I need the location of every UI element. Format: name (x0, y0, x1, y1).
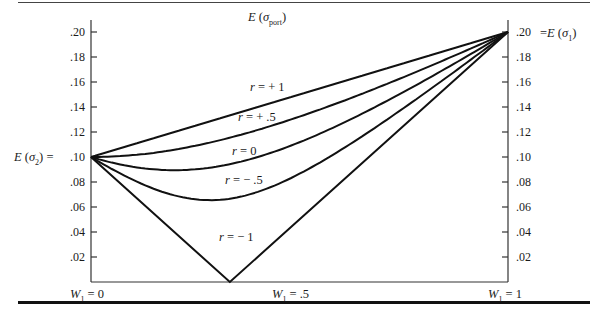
right-tick-label: .12 (516, 126, 531, 138)
left-tick-label: .02 (55, 251, 85, 263)
curve-label-r-minus-1: r = − 1 (219, 231, 254, 244)
left-axis-annotation: E (σ2) = (14, 151, 53, 167)
curve-label-r-plus-05: r = + .5 (238, 111, 276, 124)
x-label-w0: W1 = 0 (70, 288, 104, 304)
left-tick-label: .10 (55, 151, 85, 163)
left-tick-label: .16 (55, 76, 85, 88)
left-tick-label: .04 (55, 226, 85, 238)
left-tick-label: .18 (55, 51, 85, 63)
right-axis-annotation: =E (σ1) (540, 27, 576, 43)
right-tick-label: .04 (516, 226, 531, 238)
curve-label-r-plus-1: r = + 1 (250, 81, 285, 94)
curve-r-1 (91, 32, 508, 157)
right-tick-label: .16 (516, 76, 531, 88)
plot-area (0, 0, 592, 317)
curve-label-r-minus-05: r = − .5 (225, 174, 263, 187)
left-tick-label: .06 (55, 201, 85, 213)
left-tick-label: .20 (55, 26, 85, 38)
y-axis-title: E (σport) (248, 11, 286, 27)
right-tick-label: .02 (516, 251, 531, 263)
right-tick-label: .14 (516, 101, 531, 113)
right-tick-label: .08 (516, 176, 531, 188)
left-tick-label: .08 (55, 176, 85, 188)
left-tick-label: .14 (55, 101, 85, 113)
curve-r-0 (91, 32, 508, 170)
right-tick-label: .18 (516, 51, 531, 63)
left-tick-label: .12 (55, 126, 85, 138)
right-tick-label: .10 (516, 151, 531, 163)
x-label-w1: W1 = 1 (488, 288, 522, 304)
x-label-w05: W1 = .5 (272, 288, 309, 304)
right-tick-label: .20 (516, 26, 531, 38)
right-tick-label: .06 (516, 201, 531, 213)
curve-label-r-0: r = 0 (232, 145, 256, 158)
